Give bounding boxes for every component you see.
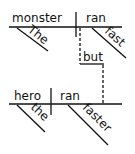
conjunction-word: but: [83, 50, 103, 64]
clause-1-verb: ran: [86, 11, 106, 25]
clause-2-verb: ran: [60, 89, 80, 103]
clause-1-subject: monster: [12, 11, 62, 25]
conjunction: but: [80, 28, 104, 103]
clause-2-verb-modifier: faster: [80, 100, 115, 135]
clause-1: monster ran The fast: [9, 11, 128, 58]
clause-1-verb-modifier: fast: [102, 24, 128, 50]
sentence-diagram: monster ran The fast but hero ran the fa…: [0, 0, 135, 154]
clause-2: hero ran the faster: [9, 88, 122, 145]
